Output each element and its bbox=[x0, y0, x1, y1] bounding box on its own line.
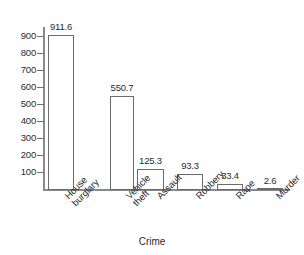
y-axis-tick-label: 400 bbox=[21, 115, 36, 126]
bar[interactable] bbox=[110, 96, 134, 190]
bar[interactable] bbox=[48, 35, 74, 190]
y-axis-tick-label: 800 bbox=[21, 47, 36, 58]
y-axis-tick-label: 300 bbox=[21, 132, 36, 143]
bar-value-label: 550.7 bbox=[105, 82, 139, 93]
y-axis-tick-label: 700 bbox=[21, 64, 36, 75]
bar-chart: 100200300400500600700800900 911.6550.712… bbox=[0, 0, 304, 255]
y-axis-tick-label: 500 bbox=[21, 98, 36, 109]
y-axis-tick-label: 600 bbox=[21, 81, 36, 92]
x-axis-title: Crime bbox=[0, 236, 304, 247]
bar-value-label: 911.6 bbox=[44, 21, 78, 32]
y-axis-tick-label: 100 bbox=[21, 166, 36, 177]
bar-value-label: 93.3 bbox=[173, 160, 207, 171]
y-axis-tick-label: 200 bbox=[21, 149, 36, 160]
y-axis-tick-label: 900 bbox=[21, 30, 36, 41]
bar-value-label: 125.3 bbox=[134, 155, 168, 166]
